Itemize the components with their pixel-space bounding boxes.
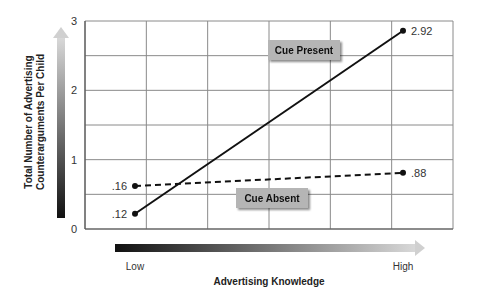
x-category-high: High: [393, 261, 414, 272]
x-axis-arrow: [115, 240, 425, 256]
y-axis-title-line-2: Counterarguments Per Child: [35, 54, 46, 190]
data-point: [400, 170, 406, 176]
data-point: [132, 211, 138, 217]
data-point: [400, 28, 406, 34]
data-label: .88: [411, 167, 426, 179]
data-label: 2.92: [411, 25, 432, 37]
data-point: [132, 183, 138, 189]
y-tick-label: 1: [71, 154, 77, 166]
y-axis-arrow: [53, 27, 69, 218]
x-category-low: Low: [126, 261, 145, 272]
y-tick-labels: 0123: [71, 15, 77, 235]
y-axis-arrow-head: [53, 27, 69, 38]
x-axis-title: Advertising Knowledge: [213, 276, 325, 287]
y-tick-label: 0: [71, 223, 77, 235]
y-tick-label: 2: [71, 84, 77, 96]
x-axis-arrow-head: [415, 240, 425, 256]
chart: Total Number of Advertising Counterargum…: [0, 0, 478, 298]
y-axis-title-line-1: Total Number of Advertising: [23, 55, 34, 188]
data-label: .16: [112, 180, 127, 192]
legend-callout-cue-absent: Cue Absent: [236, 188, 308, 208]
legend-callout-cue-present: Cue Present: [268, 40, 340, 60]
data-label: .12: [112, 208, 127, 220]
y-axis-title: Total Number of Advertising Counterargum…: [23, 54, 46, 190]
y-axis-arrow-shaft: [57, 38, 65, 218]
callout-label-cue-absent: Cue Absent: [244, 193, 300, 204]
x-axis-arrow-shaft: [115, 244, 415, 252]
y-tick-label: 3: [71, 15, 77, 27]
callout-label-cue-present: Cue Present: [275, 45, 334, 56]
